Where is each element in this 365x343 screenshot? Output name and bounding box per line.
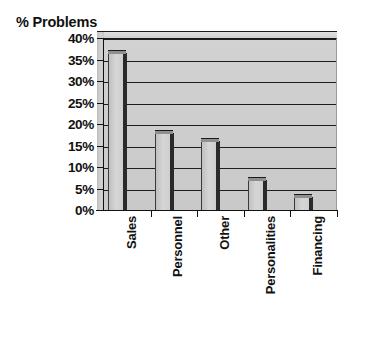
bar-side-shadow <box>123 54 127 210</box>
y-tick-mark <box>97 210 104 211</box>
y-tick-label: 0% <box>8 203 94 218</box>
category-label: Financing <box>310 216 325 276</box>
plot-top-wall <box>97 31 337 38</box>
y-tick-label: 15% <box>8 138 94 153</box>
bar <box>248 180 267 210</box>
y-tick-label: 20% <box>8 117 94 132</box>
gridline <box>104 61 336 62</box>
y-tick-mark <box>97 60 104 61</box>
x-tick-mark <box>197 210 198 217</box>
y-tick-mark <box>97 189 104 190</box>
y-tick-label: 5% <box>8 181 94 196</box>
bar <box>294 197 313 210</box>
bar <box>155 133 174 210</box>
category-label: Personnel <box>170 216 185 277</box>
x-tick-mark <box>244 210 245 217</box>
x-tick-mark <box>337 210 338 217</box>
y-tick-mark <box>97 38 104 39</box>
y-tick-mark <box>97 167 104 168</box>
bar-side-shadow <box>263 181 267 210</box>
y-tick-mark <box>97 124 104 125</box>
x-tick-mark <box>151 210 152 217</box>
y-tick-label: 10% <box>8 160 94 175</box>
x-tick-mark <box>290 210 291 217</box>
gridline <box>104 104 336 105</box>
y-tick-mark <box>97 146 104 147</box>
y-tick-label: 35% <box>8 52 94 67</box>
y-tick-label: 25% <box>8 95 94 110</box>
y-tick-mark <box>97 103 104 104</box>
bar <box>201 141 220 210</box>
y-tick-label: 40% <box>8 31 94 46</box>
x-axis-line <box>96 210 338 211</box>
bar-chart: % Problems 0%5%10%15%20%25%30%35%40% Sal… <box>0 0 365 343</box>
bar-side-shadow <box>170 134 174 210</box>
gridline <box>104 39 336 40</box>
y-tick-mark <box>97 81 104 82</box>
gridline <box>104 125 336 126</box>
chart-title: % Problems <box>16 14 97 30</box>
category-label: Other <box>217 216 232 250</box>
plot-area <box>104 38 337 210</box>
category-label: Personalities <box>263 216 278 294</box>
y-tick-label: 30% <box>8 74 94 89</box>
bar-side-shadow <box>216 142 220 210</box>
bar-side-shadow <box>309 198 313 210</box>
gridline <box>104 82 336 83</box>
category-label: Sales <box>124 216 139 249</box>
bar <box>108 53 127 210</box>
